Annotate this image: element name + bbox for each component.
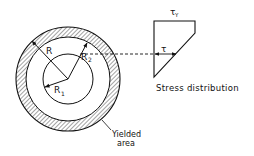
shaft-cross-section: R R 1 R 2 Yielded area	[0, 0, 254, 156]
stress-label: τ	[161, 44, 166, 54]
yield-radius-subscript: 2	[88, 56, 92, 63]
stress-distribution-caption: Stress distribution	[156, 83, 239, 93]
yielded-area-label-line1: Yielded	[111, 130, 141, 139]
yield-radius-symbol: R	[81, 52, 87, 62]
torsion-yield-diagram: R R 1 R 2 Yielded area τ Y τ Stress dist…	[0, 0, 254, 156]
yield-stress-subscript: Y	[174, 12, 179, 18]
outer-radius-label: R	[46, 46, 52, 56]
inner-radius-symbol: R	[54, 85, 60, 95]
inner-radius-subscript: 1	[61, 90, 65, 97]
yielded-area-label-line2: area	[117, 139, 135, 148]
